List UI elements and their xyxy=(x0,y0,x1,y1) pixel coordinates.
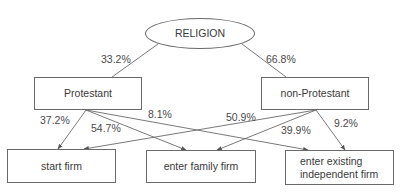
outcome-label-enter-family-firm: enter family firm xyxy=(164,160,239,173)
share-label-protestant: 33.2% xyxy=(101,53,131,65)
pct-protestant-start-firm: 37.2% xyxy=(40,114,70,126)
outcome-node-enter-existing-firm: enter existing independent firm xyxy=(285,150,394,185)
pct-protestant-family-firm: 54.7% xyxy=(91,122,121,134)
share-label-non-protestant: 66.8% xyxy=(266,53,296,65)
pct-nonprotestant-start-firm: 50.9% xyxy=(226,111,256,123)
outcome-label-enter-existing-firm: enter existing independent firm xyxy=(300,155,387,181)
root-node-religion: RELIGION xyxy=(145,18,255,49)
group-node-protestant: Protestant xyxy=(34,77,142,110)
pct-nonprotestant-existing-firm: 9.2% xyxy=(334,117,358,129)
outcome-label-start-firm: start firm xyxy=(41,160,82,173)
group-label-protestant: Protestant xyxy=(64,87,112,100)
outcome-node-start-firm: start firm xyxy=(7,149,116,183)
root-label: RELIGION xyxy=(175,27,225,40)
pct-protestant-existing-firm: 8.1% xyxy=(148,108,172,120)
arrow-nonprotestant-existing-firm xyxy=(316,110,345,150)
outcome-node-enter-family-firm: enter family firm xyxy=(146,150,256,183)
pct-nonprotestant-family-firm: 39.9% xyxy=(281,124,311,136)
group-label-non-protestant: non-Protestant xyxy=(281,87,350,100)
group-node-non-protestant: non-Protestant xyxy=(261,77,369,110)
religion-decision-tree: RELIGION Protestant non-Protestant start… xyxy=(0,0,401,194)
